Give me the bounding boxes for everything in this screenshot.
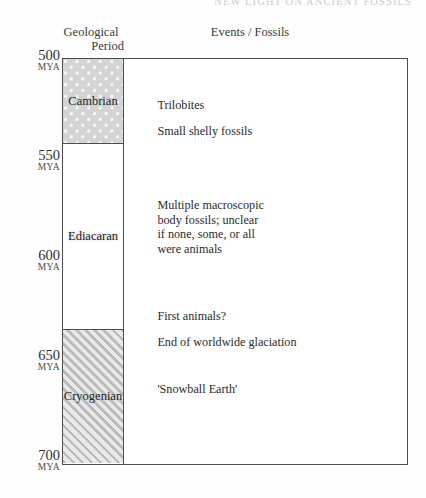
axis-tick-650-value: 650: [16, 350, 60, 362]
axis-tick-500: 500 MYA: [16, 50, 60, 73]
axis-tick-700: 700 MYA: [16, 450, 60, 473]
page-canvas: New Light on Ancient Fossils Geological …: [0, 0, 426, 498]
axis-tick-700-value: 700: [16, 450, 60, 462]
period-band-cryogenian: Cryogenian: [63, 329, 123, 463]
axis-tick-700-unit: MYA: [16, 462, 60, 474]
running-header: New Light on Ancient Fossils: [214, 0, 412, 7]
events-column: Trilobites Small shelly fossils Multiple…: [124, 59, 407, 464]
axis-tick-650-unit: MYA: [16, 362, 60, 374]
event-macroscopic-body-fossils: Multiple macroscopic body fossils; uncle…: [157, 198, 264, 256]
time-axis: 500 MYA 550 MYA 600 MYA 650 MYA 700 MYA: [16, 50, 60, 470]
period-band-ediacaran: Ediacaran: [63, 144, 123, 329]
timeline-chart-frame: Cambrian Ediacaran Cryogenian Trilobites…: [62, 58, 408, 465]
period-label-cambrian: Cambrian: [68, 94, 117, 109]
period-band-cambrian: Cambrian: [63, 59, 123, 144]
axis-tick-600: 600 MYA: [16, 250, 60, 273]
axis-tick-600-value: 600: [16, 250, 60, 262]
column-header-geological-line2: Period: [58, 40, 124, 54]
axis-tick-600-unit: MYA: [16, 262, 60, 274]
column-header-events-fossils: Events / Fossils: [170, 26, 330, 40]
column-header-geological-line1: Geological: [64, 25, 119, 39]
event-end-of-glaciation: End of worldwide glaciation: [157, 335, 296, 350]
event-trilobites: Trilobites: [157, 98, 204, 113]
axis-tick-500-unit: MYA: [16, 62, 60, 74]
period-column: Cambrian Ediacaran Cryogenian: [63, 59, 123, 464]
event-small-shelly-fossils: Small shelly fossils: [157, 124, 252, 139]
period-label-cryogenian: Cryogenian: [64, 389, 122, 404]
axis-tick-550: 550 MYA: [16, 150, 60, 173]
axis-tick-550-value: 550: [16, 150, 60, 162]
axis-tick-500-value: 500: [16, 50, 60, 62]
column-header-geological-period: Geological Period: [58, 26, 124, 53]
period-label-ediacaran: Ediacaran: [68, 229, 118, 244]
event-snowball-earth: 'Snowball Earth': [157, 382, 237, 397]
axis-tick-650: 650 MYA: [16, 350, 60, 373]
axis-tick-550-unit: MYA: [16, 162, 60, 174]
event-first-animals: First animals?: [157, 309, 226, 324]
